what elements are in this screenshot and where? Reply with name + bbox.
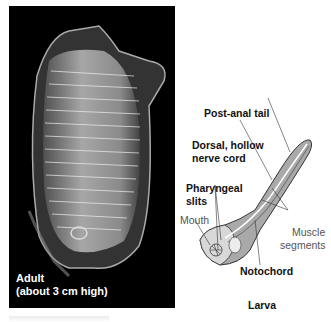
label-muscle-1: Muscle [292,226,325,238]
adult-caption: Adult (about 3 cm high) [16,272,108,298]
clipped-figure-caption [9,316,109,322]
adult-size-label: (about 3 cm high) [16,285,108,298]
adult-label: Adult [16,272,108,285]
label-pharyngeal-2: slits [186,195,207,207]
larva-diagram: Post-anal tail Dorsal, hollow nerve cord… [180,80,331,320]
larva-title: Larva [248,299,276,311]
label-pharyngeal-1: Pharyngeal [186,182,243,194]
label-nerve-cord-1: Dorsal, hollow [192,139,264,151]
tunicate-body-illustration [9,6,175,308]
label-post-anal-tail: Post-anal tail [204,107,269,119]
label-nerve-cord-2: nerve cord [192,152,246,164]
label-muscle-2: segments [280,239,326,251]
label-notochord: Notochord [240,265,293,277]
label-mouth: Mouth [180,214,209,226]
adult-tunicate-photo: Adult (about 3 cm high) [9,6,175,308]
